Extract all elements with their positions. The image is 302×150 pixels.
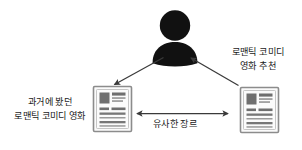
arrow-user-to-watched: [115, 58, 164, 85]
label-recommendation-line1: 로맨틱 코미디: [216, 46, 300, 60]
label-watched-movie: 과거에 봤던 로맨틱 코미디 영화: [6, 96, 94, 123]
person-icon: [153, 10, 198, 66]
diagram-canvas: 과거에 봤던 로맨틱 코미디 영화 로맨틱 코미디 영화 추천 유사한 장르: [0, 0, 302, 150]
label-similar-genre: 유사한 장르: [140, 118, 210, 132]
document-recommended[interactable]: [241, 88, 279, 133]
label-similar-genre-text: 유사한 장르: [140, 118, 210, 132]
label-watched-movie-line2: 로맨틱 코미디 영화: [6, 110, 94, 124]
label-watched-movie-line1: 과거에 봤던: [6, 96, 94, 110]
label-recommendation: 로맨틱 코미디 영화 추천: [216, 46, 300, 73]
label-recommendation-line2: 영화 추천: [216, 60, 300, 74]
document-watched[interactable]: [94, 87, 132, 132]
